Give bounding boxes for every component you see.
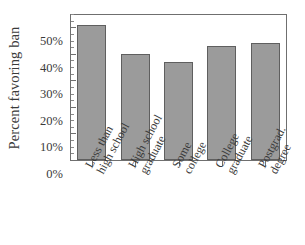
y-tick-minor — [71, 153, 74, 154]
y-axis-tick-labels: 0%10%20%30%40%50% — [26, 14, 66, 161]
x-axis-tick-labels: Less thanhigh schoolHigh schoolgraduateS… — [70, 164, 287, 244]
y-tick-label: 40% — [40, 60, 63, 75]
y-tick-major — [71, 27, 76, 28]
plot-frame-top — [70, 14, 287, 15]
y-tick-major — [71, 54, 76, 55]
y-tick-major — [71, 160, 76, 161]
bar-chart-figure: Percent favoring ban 0%10%20%30%40%50% L… — [0, 0, 305, 245]
y-tick-minor — [71, 147, 74, 148]
y-tick-minor — [71, 60, 74, 61]
y-tick-minor — [71, 114, 74, 115]
y-tick-minor — [71, 87, 74, 88]
y-tick-minor — [71, 67, 74, 68]
y-tick-minor — [71, 94, 74, 95]
y-axis-title: Percent favoring ban — [6, 27, 23, 150]
y-tick-minor — [71, 140, 74, 141]
y-tick-major — [71, 107, 76, 108]
y-tick-minor — [71, 74, 74, 75]
y-tick-minor — [71, 14, 74, 15]
y-tick-label: 0% — [46, 167, 63, 182]
y-tick-minor — [71, 34, 74, 35]
y-tick-minor — [71, 120, 74, 121]
y-tick-label: 10% — [40, 140, 63, 155]
y-tick-minor — [71, 41, 74, 42]
y-tick-minor — [71, 21, 74, 22]
y-tick-major — [71, 80, 76, 81]
y-tick-label: 20% — [40, 113, 63, 128]
y-tick-minor — [71, 127, 74, 128]
y-tick-label: 30% — [40, 87, 63, 102]
y-tick-minor — [71, 47, 74, 48]
y-tick-minor — [71, 100, 74, 101]
y-tick-label: 50% — [40, 34, 63, 49]
y-tick-major — [71, 133, 76, 134]
y-axis-title-container: Percent favoring ban — [2, 14, 26, 162]
